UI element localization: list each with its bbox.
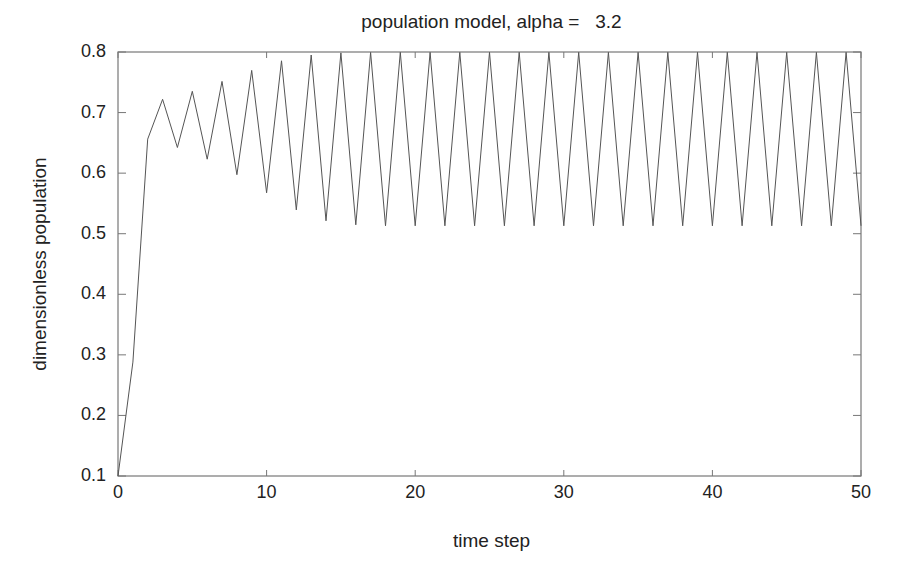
y-tick-label: 0.8	[56, 41, 106, 62]
y-tick-label: 0.4	[56, 283, 106, 304]
chart-container: population model, alpha = 3.2 dimensionl…	[0, 0, 903, 571]
x-tick-label: 0	[98, 482, 138, 503]
x-tick-label: 40	[692, 482, 732, 503]
y-tick-label: 0.2	[56, 404, 106, 425]
y-tick-label: 0.5	[56, 223, 106, 244]
y-tick-label: 0.6	[56, 162, 106, 183]
x-tick-label: 10	[247, 482, 287, 503]
y-tick-label: 0.3	[56, 344, 106, 365]
y-tick-label: 0.7	[56, 102, 106, 123]
data-line	[118, 52, 861, 476]
x-tick-label: 30	[544, 482, 584, 503]
x-tick-label: 50	[841, 482, 881, 503]
plot-frame	[118, 52, 861, 476]
x-tick-label: 20	[395, 482, 435, 503]
